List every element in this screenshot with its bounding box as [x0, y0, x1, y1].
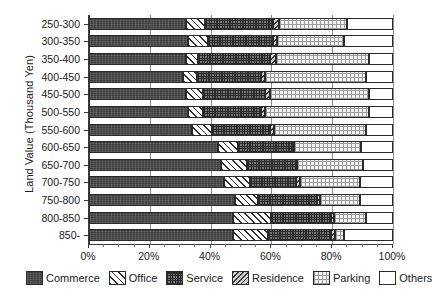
legend-swatch-commerce	[26, 271, 43, 285]
bar-segment-service	[271, 212, 330, 224]
bar-row	[89, 71, 392, 83]
bar-row	[89, 176, 392, 188]
bar-segment-parking	[297, 159, 362, 171]
bar-segment-office	[221, 159, 247, 171]
bar-segment-commerce	[89, 106, 188, 118]
bar-segment-office	[224, 176, 250, 188]
bar-segment-commerce	[89, 141, 218, 153]
bar-row	[89, 88, 392, 100]
legend-label: Commerce	[46, 272, 100, 284]
bar-segment-service	[268, 229, 330, 241]
x-axis-minor-tick	[301, 244, 302, 247]
legend-item: Service	[166, 271, 223, 285]
x-axis-minor-tick	[362, 244, 363, 247]
bar-segment-service	[258, 194, 317, 206]
bar-segment-office	[218, 141, 238, 153]
x-axis-minor-tick	[225, 244, 226, 247]
bar-segment-commerce	[89, 18, 186, 30]
bar-segment-commerce	[89, 71, 183, 83]
bar-row	[89, 106, 392, 118]
bar-segment-office	[233, 229, 268, 241]
bar-row	[89, 18, 392, 30]
bar-row	[89, 159, 392, 171]
bar-segment-service	[198, 53, 269, 65]
bar-segment-parking	[334, 212, 366, 224]
bar-segment-commerce	[89, 159, 221, 171]
legend-swatch-office	[109, 271, 126, 285]
bar-segment-others	[360, 194, 393, 206]
x-axis-minor-tick	[286, 244, 287, 247]
bar-segment-others	[369, 53, 393, 65]
bar-row	[89, 141, 392, 153]
bar-row	[89, 35, 392, 47]
legend-swatch-parking	[313, 271, 330, 285]
x-axis-minor-tick	[346, 244, 347, 247]
y-axis-tick-label: 550-600	[0, 124, 80, 136]
bar-segment-office	[188, 106, 203, 118]
y-axis-tick-label: 350-400	[0, 53, 80, 65]
y-axis-tick-label: 450-500	[0, 88, 80, 100]
legend-swatch-service	[166, 271, 183, 285]
bar-segment-office	[186, 18, 204, 30]
bar-segment-others	[369, 106, 393, 118]
y-axis-tick-label: 750-800	[0, 194, 80, 206]
bar-row	[89, 229, 392, 241]
x-axis-tick-label: 80%	[308, 250, 354, 262]
x-axis-major-tick	[270, 244, 271, 248]
bar-segment-parking	[270, 88, 369, 100]
x-axis-tick-label: 0%	[65, 250, 111, 262]
legend-label: Parking	[333, 272, 370, 284]
y-axis-tick-label: 300-350	[0, 35, 80, 47]
bar-segment-parking	[320, 194, 360, 206]
bar-segment-commerce	[89, 124, 192, 136]
bar-segment-parking	[300, 176, 359, 188]
bar-segment-parking	[274, 124, 365, 136]
bar-segment-parking	[277, 35, 344, 47]
bar-segment-others	[344, 229, 393, 241]
bar-segment-parking	[279, 18, 347, 30]
bar-segment-service	[197, 71, 261, 83]
bar-segment-service	[250, 176, 296, 188]
y-axis-tick-label: 700-750	[0, 176, 80, 188]
bar-segment-others	[366, 212, 393, 224]
bar-segment-service	[203, 88, 265, 100]
bar-segment-others	[361, 141, 393, 153]
bar-segment-others	[366, 71, 393, 83]
bar-row	[89, 53, 392, 65]
plot-area	[88, 15, 392, 244]
x-axis-major-tick	[88, 244, 89, 248]
x-axis-major-tick	[210, 244, 211, 248]
x-axis-minor-tick	[377, 244, 378, 247]
bar-row	[89, 124, 392, 136]
bar-segment-others	[344, 35, 393, 47]
bar-segment-commerce	[89, 176, 224, 188]
bar-segment-office	[235, 194, 258, 206]
bar-segment-others	[363, 159, 393, 171]
bar-row	[89, 194, 392, 206]
legend-label: Service	[186, 272, 223, 284]
bar-segment-service	[247, 159, 296, 171]
bar-segment-parking	[276, 53, 369, 65]
legend-item: Commerce	[26, 271, 100, 285]
bar-segment-office	[192, 124, 212, 136]
legend-item: Parking	[313, 271, 370, 285]
bar-segment-service	[238, 141, 293, 153]
x-axis-minor-tick	[316, 244, 317, 247]
x-axis-minor-tick	[118, 244, 119, 247]
bar-segment-parking	[294, 141, 361, 153]
legend-item: Others	[379, 271, 432, 285]
legend-swatch-residence	[232, 271, 249, 285]
x-axis-tick-label: 40%	[187, 250, 233, 262]
bar-segment-commerce	[89, 194, 235, 206]
bar-segment-office	[186, 53, 198, 65]
bar-segment-service	[203, 106, 261, 118]
bar-segment-commerce	[89, 229, 233, 241]
x-axis-minor-tick	[164, 244, 165, 247]
x-axis-minor-tick	[240, 244, 241, 247]
y-axis-tick-label: 800-850	[0, 212, 80, 224]
chart-legend: CommerceOfficeServiceResidenceParkingOth…	[26, 268, 398, 288]
bar-segment-parking	[265, 106, 368, 118]
x-axis-tick-label: 60%	[247, 250, 293, 262]
legend-swatch-others	[379, 271, 396, 285]
x-axis-minor-tick	[103, 244, 104, 247]
